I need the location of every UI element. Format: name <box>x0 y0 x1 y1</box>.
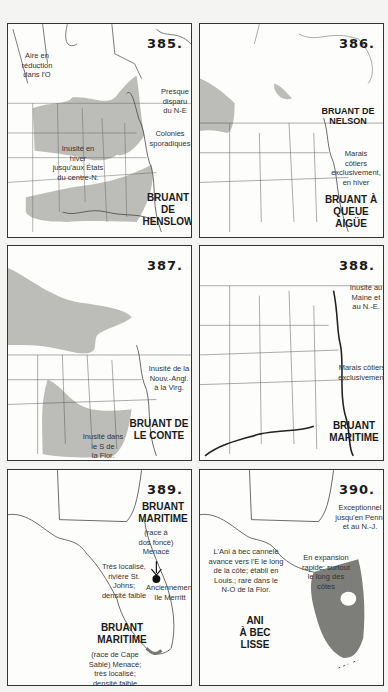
note-winter: Inusité en hiver jusqu'aux États du cent… <box>38 144 118 182</box>
species-title-bottom: BRUANT MARITIME <box>92 622 152 646</box>
note-ne: Inusité de la Nouv.-Angl. à la Virg. <box>144 364 192 393</box>
note-stjohns: Très localisé, rivière St. Johns; densit… <box>100 562 148 600</box>
species-title: BRUANT MARITIME <box>326 420 382 444</box>
title-line: BRUANT <box>92 622 152 634</box>
note-northeast: Presque disparu du N-E <box>158 87 192 116</box>
map-panel-389: 389. BRUANT MARITIME (race à dos foncé) … <box>7 469 192 686</box>
species-title: ANI À BEC LISSE <box>230 615 280 651</box>
title-line: LE CONTE <box>128 430 190 442</box>
title-line: BRUANT DE <box>318 106 378 116</box>
species-title: BRUANT DE HENSLOW <box>138 192 192 228</box>
note-dusky: (race à dos foncé) Menacé <box>136 528 176 557</box>
title-line: BRUANT <box>133 501 192 513</box>
title-line: MARITIME <box>133 513 192 525</box>
map-number: 387. <box>147 258 183 273</box>
map-panel-388: 388. Inusité au Maine et au N.-E. Marais… <box>199 245 384 461</box>
title-line: BRUANT DE <box>128 418 190 430</box>
note-exceptional: Exceptionnel jusqu'en Penn. et au N.-J. <box>334 503 384 532</box>
title-line: MARITIME <box>92 634 152 646</box>
title-line: BRUANT <box>326 420 382 432</box>
map-panel-387: 387. Inusité de la Nouv.-Angl. à la Virg… <box>7 245 192 461</box>
map-number: 388. <box>339 258 375 273</box>
map-panel-390: 390. Exceptionnel jusqu'en Penn. et au N… <box>199 469 384 686</box>
map-panel-386: 386. BRUANT DE NELSON Marais côtiers exc… <box>199 23 384 238</box>
map-panel-385: 385. Aire en réduction dans l'O Presque … <box>7 23 192 238</box>
title-line: MARITIME <box>326 432 382 444</box>
map-number: 390. <box>339 482 375 497</box>
title-line: LISSE <box>230 639 280 651</box>
title-line: BRUANT <box>138 192 192 204</box>
note-groove: L'Ani à bec cannelé avance vers l'E le l… <box>203 547 289 595</box>
map-number: 386. <box>339 36 375 51</box>
title-line: NELSON <box>318 116 378 126</box>
note-south: Inusité dans le S de la Flor. <box>78 432 128 461</box>
map-number: 389. <box>147 482 183 497</box>
note-west: Aire en réduction dans l'O <box>13 51 61 80</box>
title-line: BRUANT À <box>318 194 384 206</box>
note-sporadic: Colonies sporadiques <box>148 129 192 148</box>
note-merritt: Anciennement, île Merritt <box>146 583 192 602</box>
title-line: DE HENSLOW <box>138 204 192 228</box>
title-line: QUEUE AIGÜE <box>318 206 384 230</box>
species-title: BRUANT À QUEUE AIGÜE <box>318 194 384 230</box>
note-coastal: Marais côtiers exclusivement <box>338 363 384 382</box>
subspecies-title: BRUANT DE NELSON <box>318 106 378 126</box>
title-line: ANI <box>230 615 280 627</box>
species-title: BRUANT DE LE CONTE <box>128 418 190 442</box>
note-capesable: (race de Cape Sable) Menacé; très locali… <box>86 650 144 686</box>
title-line: À BEC <box>230 627 280 639</box>
note-maine: Inusité au Maine et au N.-E. <box>348 283 384 312</box>
map-number: 385. <box>147 36 183 51</box>
species-title-top: BRUANT MARITIME <box>133 501 192 525</box>
note-expansion: En expansion rapide; surtout le long des… <box>298 553 354 591</box>
note-coastal: Marais côtiers exclusivement, en hiver <box>328 149 384 187</box>
